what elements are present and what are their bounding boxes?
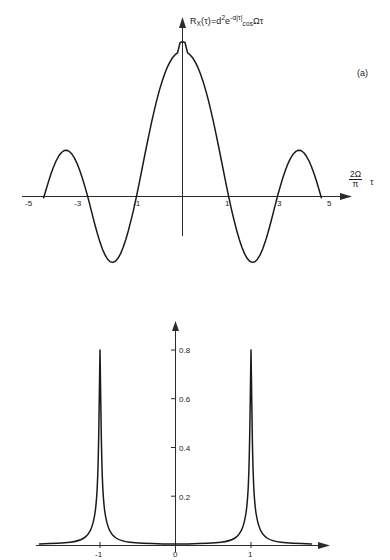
panel-a-xtick-label: 1 (225, 199, 230, 208)
figure-root: -5 -3 -1 1 3 5 RX(τ)=d2e-α|τ|cosΩτ 2Ω π … (0, 0, 390, 560)
panel-b-xtick-label: 0 (173, 550, 178, 559)
panel-a-title-R: R (190, 16, 197, 26)
panel-a-title-cos: cos (243, 20, 253, 27)
panel-b-ytick-label: 0.8 (179, 346, 191, 355)
panel-a-title-omega-tau: Ωτ (253, 16, 263, 26)
panel-a-title-exponent: -α|τ| (230, 14, 242, 21)
panel-b-chart: 0.2 0.4 0.6 0.8 -1 0 1 (0, 280, 390, 560)
panel-a-tag: (a) (357, 68, 368, 78)
panel-a-xaxis-label-num: 2Ω (349, 170, 362, 179)
panel-a: -5 -3 -1 1 3 5 RX(τ)=d2e-α|τ|cosΩτ 2Ω π … (0, 0, 390, 280)
panel-a-title-tau: (τ) (201, 16, 211, 26)
panel-a-xticks: -5 -3 -1 1 3 5 (25, 199, 332, 208)
panel-b-xtick-label: -1 (95, 550, 103, 559)
panel-a-title: RX(τ)=d2e-α|τ|cosΩτ (190, 14, 263, 27)
panel-a-x-axis-arrow (340, 193, 352, 200)
panel-b-xtick-label: 1 (248, 550, 253, 559)
panel-b-y-axis-arrow (172, 321, 179, 331)
panel-b-ytick-label: 0.4 (179, 444, 191, 453)
panel-b: 0.2 0.4 0.6 0.8 -1 0 1 SX(ω) ω Ω (b) (0, 280, 390, 560)
panel-a-y-axis-arrow (179, 17, 186, 28)
panel-b-ytick-label: 0.6 (179, 395, 191, 404)
panel-a-xaxis-label: 2Ω π (349, 170, 362, 189)
panel-a-xtick-label: -3 (74, 199, 82, 208)
panel-a-xtick-label: 3 (277, 199, 282, 208)
panel-b-x-axis-arrow (318, 542, 330, 549)
panel-a-title-eq: =d (211, 16, 221, 26)
panel-a-xtick-label: -1 (133, 199, 141, 208)
panel-b-ytick-label: 0.2 (179, 493, 191, 502)
panel-a-xtick-label: 5 (327, 199, 332, 208)
panel-a-xaxis-label-var: τ (370, 177, 374, 187)
panel-a-xtick-label: -5 (25, 199, 33, 208)
panel-a-chart: -5 -3 -1 1 3 5 (0, 0, 390, 280)
panel-a-xaxis-label-den: π (349, 179, 362, 189)
